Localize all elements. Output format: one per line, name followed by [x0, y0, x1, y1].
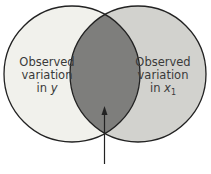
left-label-line3: in y — [37, 81, 58, 95]
left-label-line1: Observed — [19, 55, 74, 69]
left-label-line2: variation — [22, 68, 73, 82]
venn-diagram: Observed variation in y Observed variati… — [0, 0, 211, 174]
right-label-line2: variation — [138, 68, 189, 82]
right-label-line1: Observed — [135, 55, 190, 69]
